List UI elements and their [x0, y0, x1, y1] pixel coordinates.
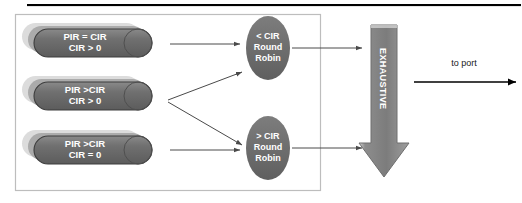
to-port-label: to port [432, 58, 496, 68]
queue-body [34, 82, 152, 110]
queue-pir-gt-cir-cir-eq-0[interactable] [22, 130, 152, 164]
connector-q2-to-above-cir [168, 102, 242, 145]
exhaustive-arrow-label: EXHAUSTIVE [378, 48, 388, 110]
top-rule [27, 4, 521, 6]
connector-q2-to-below-cir [168, 72, 242, 100]
scheduler-below-cir-shape[interactable] [246, 16, 290, 80]
diagram-vector-layer [0, 0, 522, 203]
scheduler-above-cir-shape[interactable] [246, 116, 290, 180]
queue-pir-eq-cir[interactable] [22, 23, 152, 57]
queue-body [34, 29, 152, 57]
queue-body [34, 136, 152, 164]
queue-pir-gt-cir-cir-gt-0[interactable] [22, 76, 152, 110]
diagram-canvas: PIR = CIRCIR > 0 PIR >CIRCIR > 0 PIR >CI… [0, 0, 522, 203]
